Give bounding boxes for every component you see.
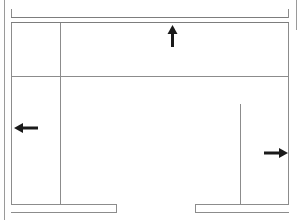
arrow-up-icon bbox=[168, 25, 178, 47]
interior-dividers bbox=[11, 23, 289, 205]
arrow-left-icon bbox=[14, 123, 38, 133]
inner-room-outline bbox=[11, 23, 289, 205]
direction-arrows bbox=[14, 25, 288, 158]
outer-frame bbox=[5, 0, 297, 220]
arrow-right-icon bbox=[264, 148, 288, 158]
floor-plan-svg bbox=[0, 0, 300, 220]
floor-plan-canvas: Floor plan line drawing with direction a… bbox=[0, 0, 300, 220]
top-bracket bbox=[11, 9, 289, 18]
bottom-bars bbox=[11, 205, 289, 213]
